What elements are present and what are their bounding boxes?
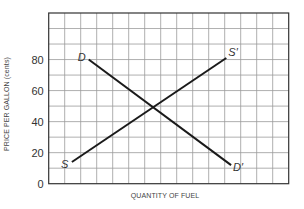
y-tick-label: 60 [31,85,43,97]
y-tick-label: 80 [31,54,43,66]
y-axis-label: PRICE PER GALLON (cents) [3,57,11,151]
plot-frame [49,13,289,184]
supply-demand-chart: 020406080 DD′SS′ QUANTITY OF FUEL PRICE … [0,0,304,209]
y-tick-label: 0 [38,178,44,190]
y-tick-label: 20 [31,147,43,159]
demand-start-label: D [78,51,86,63]
x-axis-label: QUANTITY OF FUEL [131,192,199,200]
y-tick-label: 40 [31,116,43,128]
curves: DD′SS′ [61,46,244,173]
y-axis-ticks: 020406080 [31,54,43,190]
demand-end-label: D′ [233,161,244,173]
supply-end-label: S′ [228,46,238,58]
supply-curve [72,58,226,162]
grid [49,13,289,184]
supply-start-label: S [61,158,69,170]
